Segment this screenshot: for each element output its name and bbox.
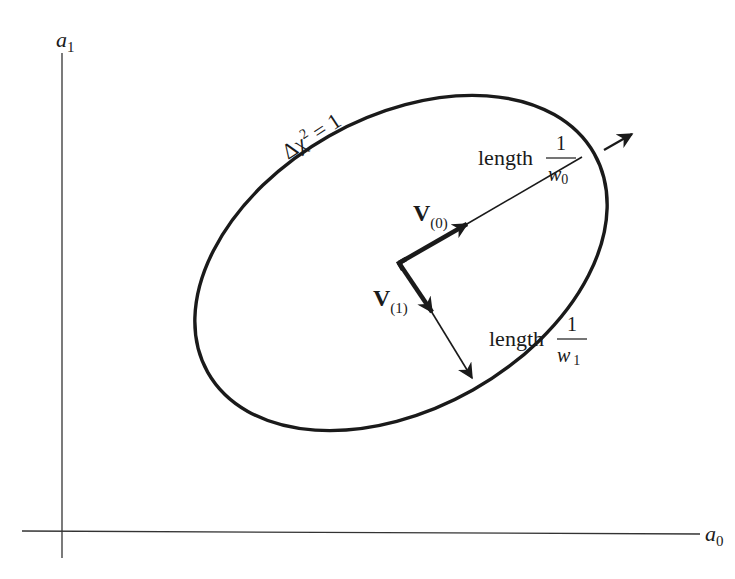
vector-v1 (399, 263, 472, 378)
v0-length-arrow (604, 134, 632, 150)
v0-label: V(0) (413, 200, 448, 232)
svg-text:1: 1 (567, 313, 577, 335)
y-axis-label: a1 (56, 27, 75, 55)
v1-extension-line (428, 306, 472, 378)
x-axis-label: a0 (705, 521, 724, 549)
svg-text:length: length (478, 145, 533, 170)
axes (22, 53, 700, 558)
svg-text:length: length (489, 326, 544, 351)
x-axis (22, 531, 700, 534)
diagram-canvas: a1 a0 Δχ2 = 1 V(0) V(1) length 1 (0, 0, 735, 579)
svg-text:w1: w1 (557, 344, 580, 368)
svg-text:1: 1 (556, 132, 566, 154)
v1-label: V(1) (373, 285, 408, 317)
v0-length-label: length 1 w0 (478, 132, 576, 187)
ellipse-label: Δχ2 = 1 (277, 107, 346, 164)
